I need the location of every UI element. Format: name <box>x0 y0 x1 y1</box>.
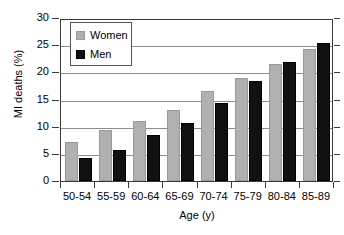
legend-swatch-women-icon <box>76 31 85 40</box>
y-axis-tick-right <box>334 154 340 155</box>
x-axis-tick <box>333 182 334 188</box>
legend: Women Men <box>70 22 132 66</box>
bar-men-55-59 <box>113 150 126 182</box>
x-axis-tick <box>299 182 300 188</box>
y-axis-tick-label: 5 <box>3 147 49 159</box>
bar-men-60-64 <box>147 135 160 181</box>
y-axis-tick <box>52 127 59 128</box>
x-axis-tick <box>60 182 61 188</box>
y-axis-tick-label: 30 <box>3 11 49 23</box>
bar-women-50-54 <box>65 142 78 181</box>
bar-chart-figure: MI deaths (%) Age (y) 051015202530 50-54… <box>0 0 344 235</box>
y-axis-tick <box>52 45 59 46</box>
legend-label-women: Women <box>90 30 128 41</box>
y-axis-tick <box>52 100 59 101</box>
y-axis-tick-right <box>334 100 340 101</box>
bar-women-55-59 <box>99 130 112 181</box>
bar-women-65-69 <box>167 110 180 181</box>
bar-men-75-79 <box>249 81 262 181</box>
bar-women-60-64 <box>133 121 146 181</box>
y-axis-tick-label: 25 <box>3 38 49 50</box>
y-axis-tick-right <box>334 181 340 182</box>
bar-men-80-84 <box>283 62 296 181</box>
y-axis-tick-label: 0 <box>3 174 49 186</box>
y-axis-tick-right <box>334 72 340 73</box>
bar-women-85-89 <box>303 49 316 181</box>
legend-swatch-men-icon <box>76 50 85 59</box>
bar-men-70-74 <box>215 103 228 181</box>
bar-women-80-84 <box>269 64 282 181</box>
bar-men-85-89 <box>317 43 330 181</box>
legend-label-men: Men <box>90 49 111 60</box>
y-axis-tick-label: 10 <box>3 120 49 132</box>
bar-women-75-79 <box>235 78 248 181</box>
x-axis-tick <box>128 182 129 188</box>
x-axis-tick <box>162 182 163 188</box>
y-axis-tick-right <box>334 18 340 19</box>
bar-men-65-69 <box>181 123 194 181</box>
bar-men-50-54 <box>79 158 92 181</box>
x-axis-tick-label: 85-89 <box>293 190 339 202</box>
bar-women-70-74 <box>201 91 214 181</box>
x-axis-title: Age (y) <box>60 209 334 221</box>
y-axis-tick-right <box>334 127 340 128</box>
legend-item-women: Women <box>76 27 128 43</box>
x-axis-tick <box>231 182 232 188</box>
y-axis-tick <box>52 72 59 73</box>
y-axis-tick-right <box>334 45 340 46</box>
legend-item-men: Men <box>76 46 111 62</box>
y-axis-tick-label: 20 <box>3 65 49 77</box>
x-axis-tick <box>197 182 198 188</box>
y-axis-tick <box>52 181 59 182</box>
x-axis-tick <box>265 182 266 188</box>
y-axis-tick <box>52 154 59 155</box>
y-axis-tick <box>52 18 59 19</box>
y-axis-tick-label: 15 <box>3 93 49 105</box>
x-axis-tick <box>94 182 95 188</box>
